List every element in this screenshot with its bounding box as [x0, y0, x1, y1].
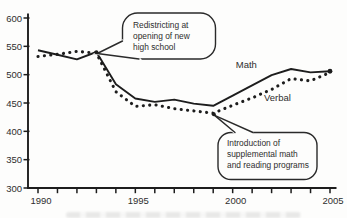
callout-tip-dot	[212, 112, 216, 116]
callout-redistricting: Redistricting atopening of newhigh schoo…	[94, 13, 215, 59]
y-tick-label: 500	[6, 69, 22, 80]
verbal-line	[38, 51, 330, 113]
callout-text-line: supplemental math	[227, 149, 298, 159]
y-tick-label: 300	[6, 183, 22, 194]
y-tick-label: 450	[6, 98, 22, 109]
callout-text-line: Redistricting at	[133, 20, 189, 30]
callout-text-line: Introduction of	[227, 138, 281, 148]
x-tick-label: 1995	[128, 195, 149, 206]
endpoint-marker	[328, 69, 333, 74]
y-tick-label: 350	[6, 154, 22, 165]
y-tick-label: 400	[6, 126, 22, 137]
callout-text-line: opening of new	[133, 31, 191, 41]
callout-supplemental-programs: Introduction ofsupplemental mathand read…	[212, 112, 317, 179]
cropped-caption-remnant	[66, 212, 301, 218]
y-axis-ticks: 600550500450400350300	[6, 13, 29, 194]
callout-text-line: high school	[133, 42, 176, 52]
sat-scores-line-chart: 6005505004504003503001990199520002005Mat…	[0, 0, 347, 218]
x-tick-label: 2000	[225, 195, 246, 206]
y-tick-label: 550	[6, 41, 22, 52]
x-tick-label: 2005	[322, 195, 343, 206]
chart-svg: 6005505004504003503001990199520002005Mat…	[0, 0, 347, 218]
x-axis-ticks: 1990199520002005	[30, 188, 343, 206]
y-tick-label: 600	[6, 13, 22, 24]
callout-tip-dot	[94, 50, 98, 54]
series-label-math: Math	[236, 59, 257, 70]
series-label-verbal: Verbal	[264, 92, 291, 103]
x-tick-label: 1990	[30, 195, 51, 206]
callout-text-line: and reading programs	[227, 160, 309, 170]
